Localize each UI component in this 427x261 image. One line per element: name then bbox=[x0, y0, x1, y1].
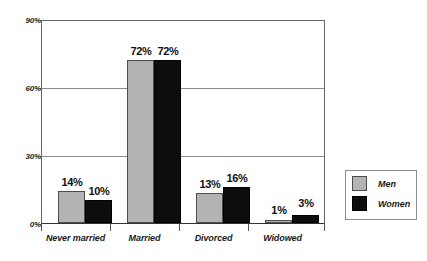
legend-item-women: Women bbox=[352, 196, 410, 211]
bar-label-women-divorced: 16% bbox=[214, 172, 260, 184]
y-axis: 90% 60% 30% 0% bbox=[0, 0, 41, 261]
legend-label-women: Women bbox=[378, 199, 410, 209]
bar-women-married bbox=[154, 60, 181, 223]
legend-swatch-women-icon bbox=[352, 196, 367, 211]
bar-label-women-widowed: 3% bbox=[283, 197, 329, 209]
bar-women-divorced bbox=[223, 187, 250, 223]
x-category-label-never-married: Never married bbox=[41, 233, 110, 243]
bar-label-women-married: 72% bbox=[145, 45, 191, 57]
bar-chart: 90% 60% 30% 0% 14% 10% 72% 72% bbox=[0, 0, 427, 261]
legend-item-men: Men bbox=[352, 176, 396, 191]
bar-group-married: 72% 72% bbox=[123, 21, 185, 223]
x-tick-mark-3 bbox=[248, 224, 249, 231]
x-category-label-widowed: Widowed bbox=[248, 233, 317, 243]
bar-men-widowed bbox=[265, 220, 292, 223]
x-category-label-married: Married bbox=[110, 233, 179, 243]
bar-women-never-married bbox=[85, 200, 112, 223]
x-tick-mark-4 bbox=[324, 224, 325, 231]
bar-men-married bbox=[127, 60, 154, 223]
bar-group-widowed: 1% 3% bbox=[261, 21, 323, 223]
bar-group-divorced: 13% 16% bbox=[192, 21, 254, 223]
x-tick-mark-2 bbox=[179, 224, 180, 231]
legend-label-men: Men bbox=[378, 179, 396, 189]
legend: Men Women bbox=[345, 170, 417, 220]
bar-group-never-married: 14% 10% bbox=[54, 21, 116, 223]
legend-swatch-men-icon bbox=[352, 176, 367, 191]
bar-women-widowed bbox=[292, 215, 319, 223]
bar-men-divorced bbox=[196, 193, 223, 223]
x-tick-mark-1 bbox=[110, 224, 111, 231]
bar-label-women-never-married: 10% bbox=[76, 185, 122, 197]
x-category-label-divorced: Divorced bbox=[179, 233, 248, 243]
plot-area: 14% 10% 72% 72% 13% 16% 1% 3% bbox=[41, 20, 325, 224]
x-tick-mark-0 bbox=[41, 224, 42, 231]
